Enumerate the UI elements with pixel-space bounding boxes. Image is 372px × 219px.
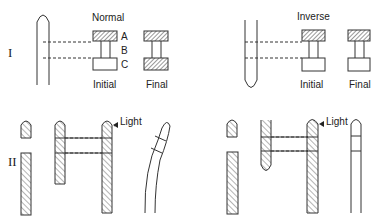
inverse-initial-label: Initial <box>300 80 323 90</box>
row-label-i: I <box>8 46 12 59</box>
segment-label-a: A <box>121 32 128 42</box>
segment-label-b: B <box>121 46 128 56</box>
diagram-drawing <box>0 0 372 219</box>
normal-title: Normal <box>92 13 124 23</box>
row-label-ii: II <box>8 155 17 168</box>
normal-final-label: Final <box>146 80 168 90</box>
inverse-title: Inverse <box>297 12 330 22</box>
inverse-final-label: Final <box>349 80 371 90</box>
segment-label-c: C <box>121 60 128 70</box>
figure: I II Normal A B C Initial Final Inverse … <box>0 0 372 219</box>
coleoptile-inverse <box>245 20 257 88</box>
light-label-left: Light <box>120 117 142 127</box>
coleoptile-normal <box>37 15 49 85</box>
normal-initial-label: Initial <box>93 80 116 90</box>
light-label-right: Light <box>326 117 348 127</box>
